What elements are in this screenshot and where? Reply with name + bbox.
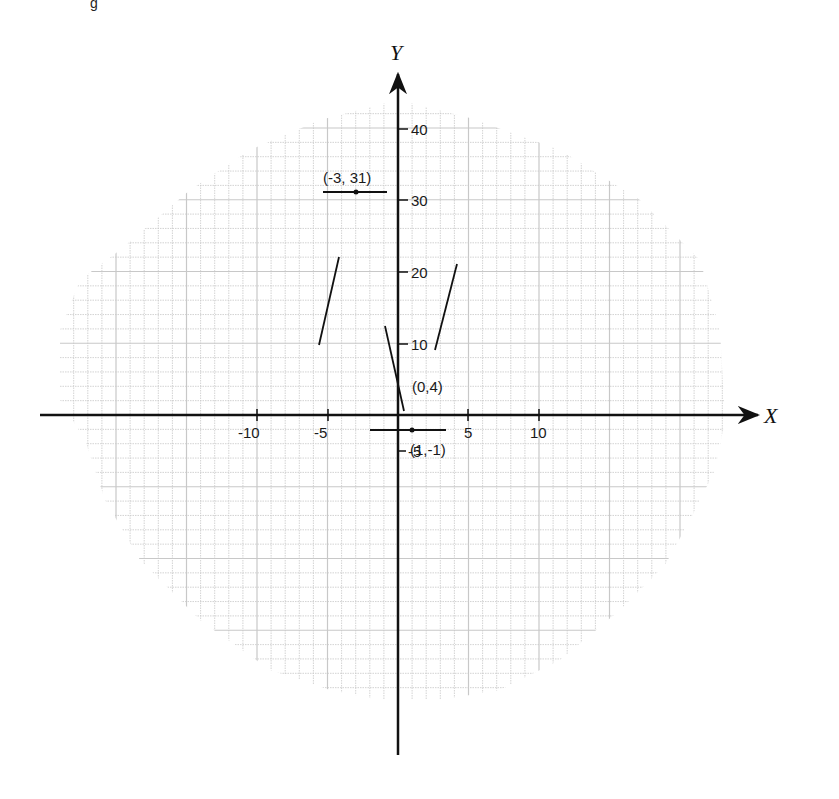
x-tick-label: -10: [238, 424, 260, 441]
point-1-neg1: [410, 428, 415, 433]
point-label: (1,-1): [410, 441, 446, 458]
point-label: (-3, 31): [323, 169, 371, 186]
x-tick-label: 5: [464, 424, 472, 441]
y-tick-label: 30: [411, 192, 428, 209]
tangent-at-0-4: [385, 326, 404, 411]
y-axis-label: Y: [390, 40, 405, 65]
caption-fragment: g: [90, 0, 98, 11]
x-tick-label: 10: [530, 424, 547, 441]
x-axis-label: X: [763, 403, 779, 428]
point-neg3-31: [354, 190, 359, 195]
y-tick-label: 10: [411, 336, 428, 353]
segment-left: [319, 257, 339, 345]
y-ticks: 40 30 20 10 -5: [398, 121, 428, 460]
y-tick-label: 40: [411, 121, 428, 138]
y-tick-label: 20: [411, 264, 428, 281]
x-tick-label: -5: [314, 424, 327, 441]
coordinate-plane: g X Y -10 -5 5 10 40 30 20 10 -5 (-3,: [0, 0, 839, 799]
point-label: (0,4): [412, 378, 443, 395]
segment-right: [435, 264, 457, 350]
